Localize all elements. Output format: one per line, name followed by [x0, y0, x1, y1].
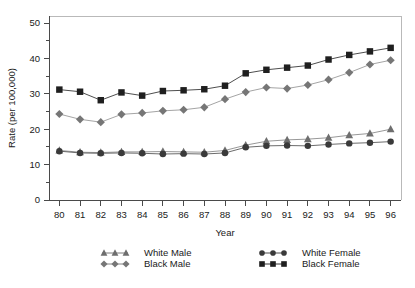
data-point — [346, 140, 352, 146]
data-point — [160, 151, 166, 157]
data-point — [56, 148, 62, 154]
data-point — [118, 89, 124, 95]
x-tick-label: 80 — [54, 209, 65, 220]
y-axis-title: Rate (per 100,000) — [6, 68, 17, 148]
x-axis-title: Year — [215, 227, 234, 238]
x-tick-label: 95 — [365, 209, 376, 220]
data-point — [77, 88, 83, 94]
data-point — [263, 143, 269, 149]
data-point — [305, 62, 311, 68]
data-point — [367, 139, 373, 145]
legend-marker-square — [270, 261, 276, 267]
data-point — [77, 150, 83, 156]
data-point — [263, 67, 269, 73]
data-point — [325, 56, 331, 62]
data-point — [387, 45, 393, 51]
x-tick-label: 94 — [344, 209, 355, 220]
legend-marker-square — [281, 261, 287, 267]
legend-label: White Female — [302, 247, 361, 258]
data-point — [98, 150, 104, 156]
x-tick-label: 92 — [303, 209, 314, 220]
data-point — [98, 97, 104, 103]
data-point — [325, 141, 331, 147]
legend-marker-circle — [259, 250, 265, 256]
data-point — [201, 86, 207, 92]
data-point — [222, 150, 228, 156]
x-tick-label: 93 — [323, 209, 334, 220]
y-tick-label: 50 — [29, 17, 40, 28]
legend-label: White Male — [144, 247, 192, 258]
data-point — [367, 48, 373, 54]
x-tick-label: 96 — [385, 209, 396, 220]
data-point — [305, 143, 311, 149]
x-tick-label: 81 — [75, 209, 86, 220]
legend-label: Black Male — [144, 258, 190, 269]
data-point — [180, 150, 186, 156]
data-point — [180, 87, 186, 93]
x-tick-label: 85 — [158, 209, 169, 220]
legend-marker-circle — [281, 250, 287, 256]
x-tick-label: 83 — [116, 209, 127, 220]
legend-label: Black Female — [302, 258, 360, 269]
data-point — [118, 150, 124, 156]
data-point — [284, 64, 290, 70]
legend-marker-square — [259, 261, 265, 267]
x-tick-label: 86 — [178, 209, 189, 220]
x-tick-label: 91 — [282, 209, 293, 220]
x-tick-label: 84 — [137, 209, 148, 220]
rate-by-year-line-chart: 01020304050 Rate (per 100,000) 808182838… — [0, 0, 415, 288]
x-tick-label: 90 — [261, 209, 272, 220]
data-point — [284, 142, 290, 148]
legend-marker-circle — [270, 250, 276, 256]
y-tick-label: 0 — [35, 194, 40, 205]
y-tick-label: 20 — [29, 124, 40, 135]
y-tick-label: 10 — [29, 159, 40, 170]
data-point — [56, 86, 62, 92]
data-point — [222, 82, 228, 88]
data-point — [160, 88, 166, 94]
data-point — [139, 150, 145, 156]
data-point — [139, 92, 145, 98]
data-point — [242, 144, 248, 150]
data-point — [346, 52, 352, 58]
data-point — [201, 151, 207, 157]
y-tick-label: 40 — [29, 53, 40, 64]
y-tick-label: 30 — [29, 88, 40, 99]
x-tick-label: 88 — [220, 209, 231, 220]
x-tick-label: 82 — [95, 209, 106, 220]
data-point — [387, 138, 393, 144]
x-tick-label: 87 — [199, 209, 210, 220]
data-point — [242, 70, 248, 76]
figure-background — [0, 0, 415, 288]
x-tick-label: 89 — [240, 209, 251, 220]
